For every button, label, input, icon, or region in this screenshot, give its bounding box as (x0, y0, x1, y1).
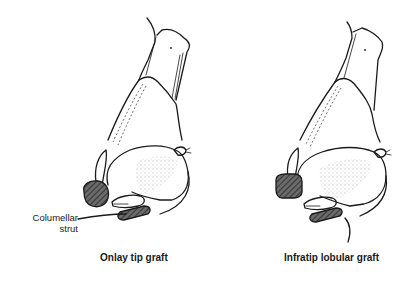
callout-line-2: strut (28, 223, 78, 234)
right-nose-drawing (276, 22, 391, 242)
dorsum-line (108, 80, 139, 140)
onlay-tip-graft (84, 181, 109, 207)
upper-cartilage-plate (353, 28, 383, 110)
left-nose-drawing (78, 18, 191, 220)
infratip-lobular-graft (276, 174, 302, 198)
upper-lateral-cartilage (335, 79, 380, 142)
caption-infratip-lobular-graft: Infratip lobular graft (284, 252, 379, 263)
caption-onlay-tip-graft: Onlay tip graft (100, 252, 168, 263)
callout-line-1: Columellar (28, 212, 78, 223)
nasal-bone (335, 22, 352, 82)
nostril (112, 195, 144, 207)
nose-illustrations (0, 0, 413, 282)
lip-line (345, 218, 350, 242)
columellar-strut-label: Columellar strut (28, 212, 78, 234)
